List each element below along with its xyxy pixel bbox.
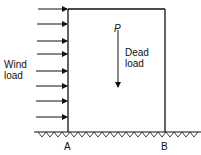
force-symbol-p: P: [114, 23, 121, 34]
dead-label-line2: load: [125, 58, 149, 69]
frame-diagram: [0, 0, 201, 155]
support-b-label: B: [161, 141, 168, 152]
wind-load-label: Wind load: [4, 59, 27, 81]
wind-load-arrows: [36, 9, 67, 117]
dead-label-line1: Dead: [125, 47, 149, 58]
ground-hatch: [34, 132, 201, 137]
wind-label-line2: load: [4, 70, 27, 81]
support-a-label: A: [64, 141, 71, 152]
wind-label-line1: Wind: [4, 59, 27, 70]
dead-load-label: Dead load: [125, 47, 149, 69]
